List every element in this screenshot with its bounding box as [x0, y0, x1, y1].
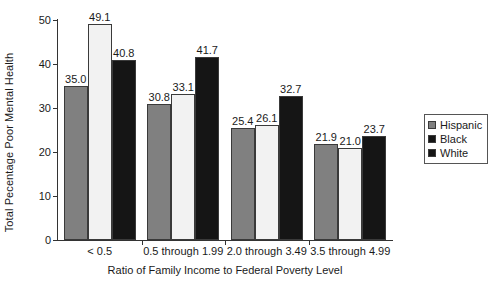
bar-value-label: 21.9 — [316, 132, 337, 143]
bar-black-1[interactable]: 33.1 — [171, 94, 195, 240]
y-tick-label: 30 — [39, 103, 51, 114]
legend-swatch-icon — [428, 149, 436, 157]
bar-group: 25.426.132.7 — [231, 20, 303, 240]
y-tick-mark — [53, 152, 57, 153]
y-tick-label: 40 — [39, 59, 51, 70]
bar-hispanic-2[interactable]: 25.4 — [231, 128, 255, 240]
legend-label: Black — [440, 134, 467, 145]
legend-item-hispanic[interactable]: Hispanic — [428, 118, 482, 132]
bar-value-label: 23.7 — [364, 124, 385, 135]
y-tick-mark — [53, 240, 57, 241]
y-tick-label: 20 — [39, 147, 51, 158]
legend-item-white[interactable]: White — [428, 146, 482, 160]
plot-area: 0102030405035.049.140.830.833.141.725.42… — [58, 20, 392, 240]
bar-chart: Total Pecentage Poor Mental Health 01020… — [0, 0, 498, 285]
bar-group: 21.921.023.7 — [314, 20, 386, 240]
bar-white-0[interactable]: 40.8 — [112, 60, 136, 240]
y-axis-title: Total Pecentage Poor Mental Health — [0, 0, 18, 285]
legend-swatch-icon — [428, 121, 436, 129]
y-tick-mark — [53, 108, 57, 109]
legend-item-black[interactable]: Black — [428, 132, 482, 146]
bar-value-label: 32.7 — [280, 84, 301, 95]
bar-white-3[interactable]: 23.7 — [362, 136, 386, 240]
y-tick-mark — [53, 20, 57, 21]
y-tick-label: 0 — [45, 235, 51, 246]
bar-hispanic-0[interactable]: 35.0 — [64, 86, 88, 240]
bar-value-label: 25.4 — [232, 116, 253, 127]
bar-value-label: 30.8 — [149, 92, 170, 103]
bar-value-label: 33.1 — [173, 82, 194, 93]
bar-value-label: 35.0 — [65, 74, 86, 85]
legend-swatch-icon — [428, 135, 436, 143]
chart-legend: HispanicBlackWhite — [424, 114, 488, 164]
bar-black-3[interactable]: 21.0 — [338, 148, 362, 240]
bar-value-label: 41.7 — [197, 45, 218, 56]
bar-group: 30.833.141.7 — [147, 20, 219, 240]
legend-label: White — [440, 148, 468, 159]
x-category-label: < 0.5 — [87, 246, 112, 257]
bar-hispanic-1[interactable]: 30.8 — [147, 104, 171, 240]
y-tick-label: 50 — [39, 15, 51, 26]
y-tick-label: 10 — [39, 191, 51, 202]
x-category-label: 0.5 through 1.99 — [143, 246, 223, 257]
x-axis-title: Ratio of Family Income to Federal Povert… — [58, 264, 392, 276]
bar-black-2[interactable]: 26.1 — [255, 125, 279, 240]
bar-black-0[interactable]: 49.1 — [88, 24, 112, 240]
bar-white-2[interactable]: 32.7 — [279, 96, 303, 240]
x-category-label: 2.0 through 3.49 — [227, 246, 307, 257]
y-tick-mark — [53, 64, 57, 65]
x-category-label: 3.5 through 4.99 — [310, 246, 390, 257]
y-tick-mark — [53, 196, 57, 197]
bar-value-label: 26.1 — [256, 113, 277, 124]
bar-group: 35.049.140.8 — [64, 20, 136, 240]
bar-value-label: 21.0 — [340, 136, 361, 147]
bar-white-1[interactable]: 41.7 — [195, 57, 219, 240]
bar-value-label: 40.8 — [113, 48, 134, 59]
bar-value-label: 49.1 — [89, 12, 110, 23]
bar-hispanic-3[interactable]: 21.9 — [314, 144, 338, 240]
legend-label: Hispanic — [440, 120, 482, 131]
